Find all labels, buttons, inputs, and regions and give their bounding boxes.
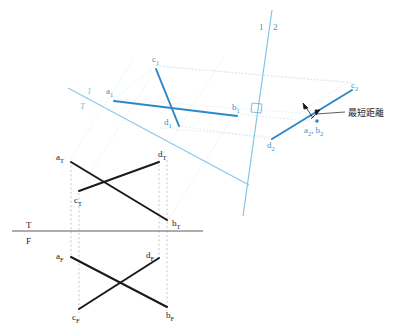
arrowhead-lower-icon bbox=[315, 110, 320, 115]
fold-line-T1 bbox=[68, 88, 249, 185]
aux2-view-labels: c2 d2 a2,b2 bbox=[267, 80, 358, 152]
arrowhead-upper-icon bbox=[303, 103, 308, 109]
aux1-view-segments bbox=[114, 69, 237, 126]
fold-label-1: 1 bbox=[259, 22, 264, 32]
label-c1: c1 bbox=[152, 54, 159, 66]
projectors-top-to-aux1 bbox=[70, 57, 240, 222]
projector-d1-d2 bbox=[178, 126, 272, 139]
segment-a1-b1 bbox=[114, 101, 237, 116]
label-aF: aF bbox=[56, 251, 64, 263]
label-c2: c2 bbox=[351, 80, 358, 92]
fold-label-T-lower: T bbox=[80, 101, 86, 111]
fold-label-F: F bbox=[26, 236, 31, 246]
label-cT: cT bbox=[74, 195, 82, 207]
label-bF: bF bbox=[166, 310, 175, 322]
right-angle-marker-icon bbox=[251, 103, 262, 113]
plane-ref-upper bbox=[114, 99, 300, 113]
annotation-leader-line bbox=[316, 112, 345, 114]
label-b1: b1 bbox=[232, 102, 240, 114]
projectors-top-front bbox=[71, 160, 167, 313]
fold-label-2: 2 bbox=[273, 22, 278, 32]
fold-label-T: T bbox=[26, 220, 32, 230]
segment-cT-dT bbox=[79, 162, 159, 191]
label-aT: aT bbox=[56, 152, 64, 164]
front-view-segments bbox=[71, 257, 167, 309]
point-view-ab2-dot bbox=[315, 119, 319, 123]
segment-aF-bF bbox=[71, 257, 167, 307]
descriptive-geometry-figure: T F 1 T 1 2 aT cT dT bT aF dF cF bF a1 b… bbox=[0, 0, 406, 323]
label-ab2: a2,b2 bbox=[304, 125, 323, 137]
segment-aT-bT bbox=[71, 162, 167, 220]
label-dF: dF bbox=[146, 250, 155, 262]
segment-cF-dF bbox=[79, 258, 159, 309]
projector-c1-c2 bbox=[156, 66, 352, 83]
label-dT: dT bbox=[158, 149, 167, 161]
aux1-view-labels: a1 b1 c1 d1 bbox=[106, 54, 240, 129]
top-view-segments bbox=[71, 162, 167, 220]
projectors-aux1-to-aux2 bbox=[156, 66, 352, 139]
label-bT: bT bbox=[172, 218, 181, 230]
shortest-distance-annotation: 最短距離 bbox=[348, 107, 384, 118]
label-cF: cF bbox=[72, 312, 80, 323]
label-d2: d2 bbox=[267, 140, 275, 152]
label-a1: a1 bbox=[106, 86, 113, 98]
label-d1: d1 bbox=[164, 117, 172, 129]
figure-canvas: T F 1 T 1 2 aT cT dT bT aF dF cF bF a1 b… bbox=[0, 0, 406, 323]
plane-edge-left bbox=[114, 66, 156, 99]
fold-label-1-upperleft: 1 bbox=[87, 86, 92, 96]
